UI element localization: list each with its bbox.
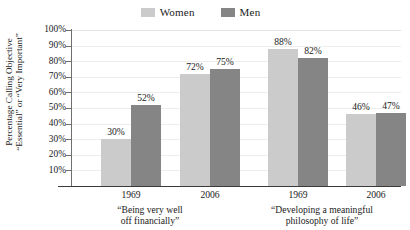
bar-value-label: 30% — [96, 127, 136, 137]
legend-item-men: Men — [221, 7, 261, 18]
bar-men-1969-philosophy[interactable] — [298, 58, 328, 186]
x-tick-label-2006-financial: 2006 — [178, 190, 242, 200]
y-axis-tick — [66, 170, 71, 171]
legend-label-women: Women — [160, 7, 195, 18]
y-tick-label: 80% — [32, 57, 66, 66]
x-tick-label-1969-philosophy: 1969 — [266, 190, 330, 200]
x-tick-label-1969-financial: 1969 — [99, 190, 163, 200]
bar-men-1969-financial[interactable] — [131, 105, 161, 186]
bar-women-2006-philosophy[interactable] — [346, 114, 376, 186]
y-tick-label: 70% — [32, 72, 66, 81]
bar-men-2006-philosophy[interactable] — [376, 113, 406, 186]
bar-women-2006-financial[interactable] — [180, 74, 210, 186]
y-axis-title-line-2: “Essential” or “Very Important” — [14, 33, 25, 151]
y-axis-tick — [66, 61, 71, 62]
y-tick-label: 20% — [32, 150, 66, 159]
bar-series-group: 30% 52% 72% 75% 88% 82% 46% 47% — [72, 30, 401, 186]
legend-swatch-women — [141, 8, 155, 17]
bar-women-1969-financial[interactable] — [101, 139, 131, 186]
x-axis-category-philosophy-line-2: philosophy of life” — [242, 215, 402, 226]
y-axis-tick — [66, 139, 71, 140]
y-axis-tick — [66, 108, 71, 109]
y-tick-label: 90% — [32, 41, 66, 50]
y-axis-tick — [66, 30, 71, 31]
plot-area: 30% 52% 72% 75% 88% 82% 46% 47% — [72, 30, 401, 186]
y-axis-tick — [66, 46, 71, 47]
bar-value-label: 52% — [126, 93, 166, 103]
y-tick-label: 50% — [32, 103, 66, 112]
bar-value-label: 75% — [205, 57, 245, 67]
legend-label-men: Men — [240, 7, 261, 18]
y-axis-title-line-1: Percentage Calling Objective — [4, 38, 15, 146]
y-tick-label: 40% — [32, 119, 66, 128]
y-tick-label: 60% — [32, 88, 66, 97]
y-axis-tick-labels: 100% 90% 80% 70% 60% 50% 40% 30% 20% 10% — [28, 0, 66, 230]
y-axis-tick — [66, 77, 71, 78]
x-axis-category-financial-line-2: off financially” — [70, 215, 230, 226]
bar-value-label: 88% — [263, 37, 303, 47]
x-axis-category-philosophy-line-1: “Developing a meaningful — [271, 204, 373, 215]
y-tick-label: 100% — [32, 25, 66, 34]
y-axis-tick — [66, 92, 71, 93]
x-tick-label-2006-philosophy: 2006 — [344, 190, 408, 200]
x-axis-category-financial: “Being very well off financially” — [70, 204, 230, 226]
bar-men-2006-financial[interactable] — [210, 69, 240, 186]
legend-swatch-men — [221, 8, 235, 17]
x-axis-category-philosophy: “Developing a meaningful philosophy of l… — [242, 204, 402, 226]
bar-women-1969-philosophy[interactable] — [268, 49, 298, 186]
y-axis-tick — [66, 124, 71, 125]
y-axis-title: Percentage Calling Objective “Essential”… — [0, 2, 28, 182]
y-tick-label: 10% — [32, 166, 66, 175]
legend-item-women: Women — [141, 7, 195, 18]
x-axis-labels: 1969 2006 1969 2006 “Being very well off… — [72, 190, 401, 230]
y-axis-tick — [66, 155, 71, 156]
x-axis-category-financial-line-1: “Being very well — [117, 204, 183, 215]
bar-value-label: 47% — [371, 101, 410, 111]
y-tick-label: 30% — [32, 135, 66, 144]
x-axis-baseline — [58, 186, 401, 187]
bar-value-label: 82% — [293, 46, 333, 56]
